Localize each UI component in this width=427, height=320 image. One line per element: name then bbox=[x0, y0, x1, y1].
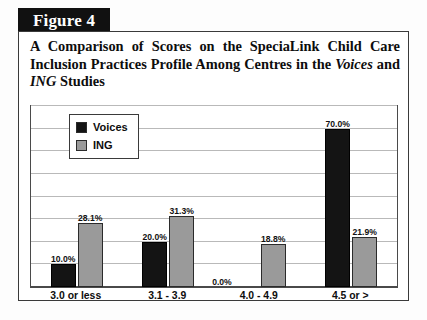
legend-item-ing[interactable]: ING bbox=[76, 138, 128, 153]
figure-title: A Comparison of Scores on the SpeciaLink… bbox=[30, 38, 400, 91]
bar-value-label: 31.3% bbox=[170, 206, 194, 216]
figure-title-run-2: and bbox=[373, 56, 400, 72]
bar-ing[interactable]: 28.1% bbox=[78, 223, 103, 287]
legend-swatch-voices-icon bbox=[76, 122, 87, 133]
x-axis-label: 4.5 or > bbox=[332, 289, 369, 303]
legend-swatch-ing-icon bbox=[76, 140, 87, 151]
bar-value-label: 28.1% bbox=[78, 213, 102, 223]
bar-value-label: 20.0% bbox=[143, 232, 167, 242]
bar-value-label: 18.8% bbox=[261, 234, 285, 244]
bar-voices[interactable]: 70.0% bbox=[325, 129, 350, 287]
x-axis-label: 4.0 - 4.9 bbox=[240, 289, 278, 303]
bar-ing[interactable]: 18.8% bbox=[261, 244, 286, 287]
x-axis-category-labels: 3.0 or less3.1 - 3.94.0 - 4.94.5 or > bbox=[30, 289, 398, 305]
bar-value-label: 0.0% bbox=[212, 277, 232, 287]
bar-voices[interactable]: 10.0% bbox=[51, 264, 76, 287]
x-axis-label: 3.0 or less bbox=[50, 289, 101, 303]
legend-label: ING bbox=[93, 140, 113, 151]
bar-ing[interactable]: 31.3% bbox=[169, 216, 194, 287]
figure-title-run-4: Studies bbox=[56, 73, 104, 89]
figure-title-run-3: ING bbox=[30, 73, 56, 89]
figure-card: A Comparison of Scores on the SpeciaLink… bbox=[18, 31, 409, 301]
bar-voices[interactable]: 20.0% bbox=[142, 242, 167, 287]
chart-plot-frame: 10.0%28.1%20.0%31.3%0.0%18.8%70.0%21.9% … bbox=[30, 105, 398, 288]
bar-value-label: 70.0% bbox=[326, 119, 350, 129]
bar-ing[interactable]: 21.9% bbox=[352, 237, 377, 287]
x-axis-label: 3.1 - 3.9 bbox=[148, 289, 186, 303]
bar-group: 70.0%21.9% bbox=[306, 106, 398, 287]
bar-value-label: 10.0% bbox=[51, 254, 75, 264]
legend-item-voices[interactable]: Voices bbox=[76, 120, 128, 135]
bar-group: 0.0%18.8% bbox=[214, 106, 306, 287]
figure-tag-label: Figure 4 bbox=[33, 12, 95, 29]
figure-root: Figure 4 A Comparison of Scores on the S… bbox=[0, 0, 427, 320]
figure-tag-banner: Figure 4 bbox=[18, 8, 110, 33]
figure-title-run-1: Voices bbox=[335, 56, 373, 72]
legend-label: Voices bbox=[93, 122, 128, 133]
chart-legend: VoicesING bbox=[69, 114, 139, 159]
bar-value-label: 21.9% bbox=[353, 227, 377, 237]
